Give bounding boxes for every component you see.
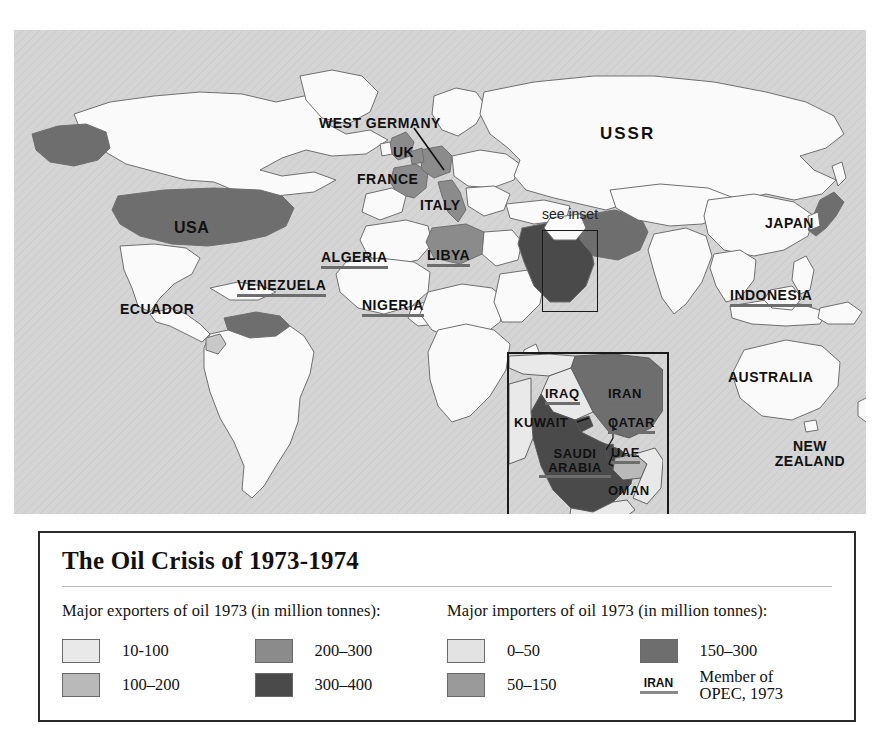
legend-swatch <box>640 639 678 663</box>
legend-title: The Oil Crisis of 1973-1974 <box>62 547 832 575</box>
world-map-svg <box>14 30 866 514</box>
legend-item: 300–400 <box>255 668 448 702</box>
inset-label-iraq: IRAQ <box>545 387 580 405</box>
legend-swatch <box>447 673 485 697</box>
legend-opec-key-sample: IRAN <box>640 676 678 694</box>
legend-label: 100–200 <box>122 676 180 693</box>
legend-label: 300–400 <box>315 676 373 693</box>
legend-importers-column: Major importers of oil 1973 (in million … <box>447 601 832 702</box>
map-label-italy: ITALY <box>420 198 461 213</box>
map-label-france: FRANCE <box>357 172 418 187</box>
inset-label-qatar: QATAR <box>608 416 655 434</box>
legend-importers-heading: Major importers of oil 1973 (in million … <box>447 601 832 621</box>
map-label-indonesia: INDONESIA <box>730 288 812 307</box>
legend-exporters-heading: Major exporters of oil 1973 (in million … <box>62 601 447 621</box>
map-label-algeria: ALGERIA <box>321 250 388 269</box>
middle-east-inset: IRAQ IRAN KUWAIT QATAR UAE SAUDI ARABIA … <box>507 352 669 514</box>
inset-locator-box <box>542 230 598 312</box>
map-label-libya: LIBYA <box>427 248 470 267</box>
legend-label: 0–50 <box>507 642 540 659</box>
legend-exporters-col-a: 10-100 100–200 <box>62 634 255 702</box>
map-label-new-zealand-line1: NEW <box>793 438 827 454</box>
map-label-nigeria: NIGERIA <box>362 298 424 317</box>
map-label-new-zealand-line2: ZEALAND <box>775 453 845 469</box>
legend-label: Member of OPEC, 1973 <box>700 668 783 703</box>
legend-label: 50–150 <box>507 676 557 693</box>
legend-swatch <box>255 673 293 697</box>
legend-swatch <box>255 639 293 663</box>
map-label-ussr: USSR <box>600 125 655 143</box>
legend-exporters-column: Major exporters of oil 1973 (in million … <box>62 601 447 702</box>
legend-swatch <box>62 639 100 663</box>
map-label-west-germany: WEST GERMANY <box>319 116 441 131</box>
legend-divider <box>62 586 832 587</box>
legend-swatch <box>62 673 100 697</box>
inset-label-uae: UAE <box>611 446 640 464</box>
legend-importers-col-a: 0–50 50–150 <box>447 634 640 702</box>
legend-opec-line2: OPEC, 1973 <box>700 684 783 703</box>
map-label-uk: UK <box>393 145 414 160</box>
map-label-ecuador: ECUADOR <box>120 302 194 317</box>
legend-panel: The Oil Crisis of 1973-1974 Major export… <box>38 531 856 722</box>
inset-label-oman: OMAN <box>608 484 650 498</box>
island-tasmania <box>804 420 818 432</box>
map-label-australia: AUSTRALIA <box>728 370 813 385</box>
inset-label-saudi-arabia: SAUDI ARABIA <box>539 447 611 478</box>
map-label-venezuela: VENEZUELA <box>237 278 326 297</box>
inset-label-kuwait: KUWAIT <box>514 416 568 430</box>
map-label-new-zealand: NEW ZEALAND <box>764 439 856 468</box>
inset-label-iran: IRAN <box>608 387 642 405</box>
legend-exporters-col-b: 200–300 300–400 <box>255 634 448 702</box>
map-label-see-inset: see inset <box>542 207 598 222</box>
legend-item: 200–300 <box>255 634 448 668</box>
legend-swatch <box>447 639 485 663</box>
world-map: USA VENEZUELA ECUADOR WEST GERMANY UK FR… <box>14 30 866 514</box>
legend-item: 150–300 <box>640 634 833 668</box>
legend-label: 200–300 <box>315 642 373 659</box>
legend-item: 100–200 <box>62 668 255 702</box>
legend-item: 50–150 <box>447 668 640 702</box>
legend-label: 10-100 <box>122 642 169 659</box>
legend-importers-col-b: 150–300 IRAN Member of OPEC, 1973 <box>640 634 833 702</box>
legend-label: 150–300 <box>700 642 758 659</box>
legend-item: 0–50 <box>447 634 640 668</box>
map-label-japan: JAPAN <box>765 216 814 231</box>
inset-label-saudi-line2: ARABIA <box>548 460 602 475</box>
country-ireland <box>380 142 392 156</box>
map-page: USA VENEZUELA ECUADOR WEST GERMANY UK FR… <box>0 0 894 756</box>
legend-item: IRAN Member of OPEC, 1973 <box>640 668 833 702</box>
legend-opec-line1: Member of <box>700 667 774 686</box>
legend-item: 10-100 <box>62 634 255 668</box>
map-label-usa: USA <box>174 220 209 237</box>
